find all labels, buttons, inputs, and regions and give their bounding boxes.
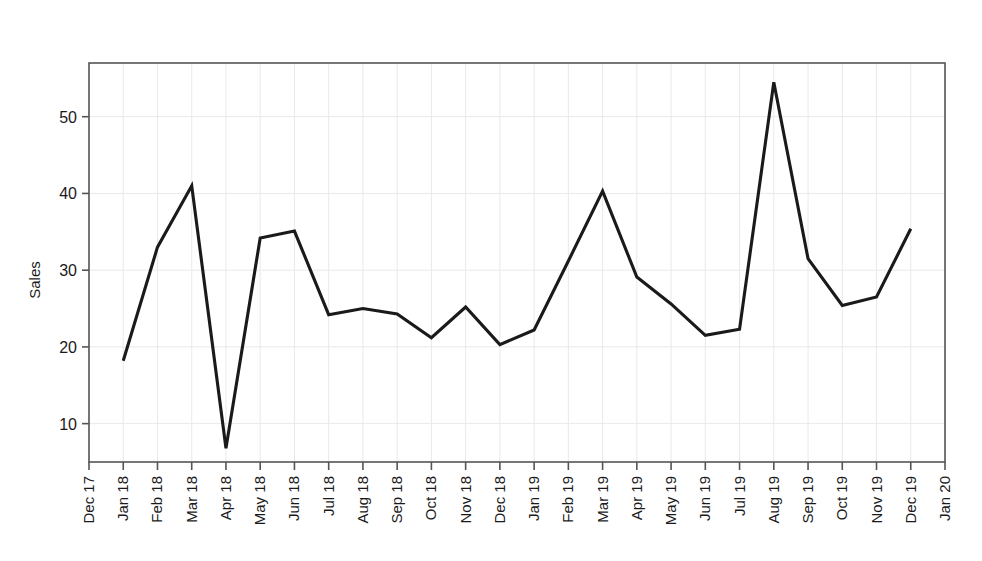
svg-text:50: 50 bbox=[59, 109, 77, 126]
svg-text:Jan 18: Jan 18 bbox=[114, 476, 131, 521]
svg-text:Oct 18: Oct 18 bbox=[422, 476, 439, 520]
svg-text:Dec 18: Dec 18 bbox=[491, 476, 508, 524]
svg-text:Oct 19: Oct 19 bbox=[833, 476, 850, 520]
svg-text:May 19: May 19 bbox=[662, 476, 679, 525]
svg-text:Jun 19: Jun 19 bbox=[696, 476, 713, 521]
svg-text:Dec 19: Dec 19 bbox=[902, 476, 919, 524]
svg-text:Mar 19: Mar 19 bbox=[594, 476, 611, 523]
svg-text:Sep 19: Sep 19 bbox=[799, 476, 816, 524]
chart-figure: Monthly sales data 1020304050 Dec 17Jan … bbox=[0, 0, 982, 561]
svg-text:20: 20 bbox=[59, 339, 77, 356]
svg-text:Jun 18: Jun 18 bbox=[285, 476, 302, 521]
svg-text:Mar 18: Mar 18 bbox=[183, 476, 200, 523]
svg-text:Apr 18: Apr 18 bbox=[217, 476, 234, 520]
svg-text:May 18: May 18 bbox=[251, 476, 268, 525]
svg-text:Apr 19: Apr 19 bbox=[628, 476, 645, 520]
svg-text:Jan 20: Jan 20 bbox=[936, 476, 953, 521]
svg-text:Feb 19: Feb 19 bbox=[559, 476, 576, 523]
line-chart: 1020304050 Dec 17Jan 18Feb 18Mar 18Apr 1… bbox=[0, 0, 982, 561]
svg-text:Sep 18: Sep 18 bbox=[388, 476, 405, 524]
svg-text:Aug 19: Aug 19 bbox=[765, 476, 782, 524]
svg-text:Aug 18: Aug 18 bbox=[354, 476, 371, 524]
svg-text:Jul 18: Jul 18 bbox=[320, 476, 337, 516]
svg-text:Dec 17: Dec 17 bbox=[80, 476, 97, 524]
svg-text:Jul 19: Jul 19 bbox=[731, 476, 748, 516]
svg-text:Jan 19: Jan 19 bbox=[525, 476, 542, 521]
svg-text:40: 40 bbox=[59, 185, 77, 202]
svg-text:10: 10 bbox=[59, 416, 77, 433]
svg-text:Nov 18: Nov 18 bbox=[457, 476, 474, 524]
svg-text:Nov 19: Nov 19 bbox=[868, 476, 885, 524]
svg-text:Feb 18: Feb 18 bbox=[148, 476, 165, 523]
svg-text:30: 30 bbox=[59, 262, 77, 279]
y-axis-label: Sales bbox=[26, 261, 43, 299]
